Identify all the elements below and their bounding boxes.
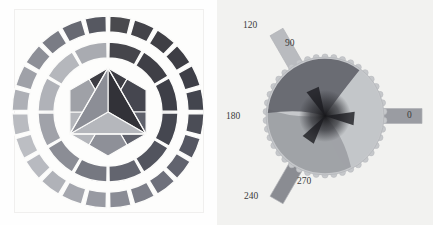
phase-disk-body [266,57,384,175]
wheel-middle-segment [38,78,61,111]
wheel-outer-segment [62,20,86,42]
wheel-middle-segment [136,140,168,172]
wheel-outer-segment [62,182,86,204]
wheel-middle-segment [109,159,142,182]
figure-root: 090120180240270 [0,0,433,225]
angle-label-90: 90 [285,38,295,48]
phase-disk-lobes [268,59,382,173]
angle-label-270: 270 [297,176,312,186]
wheel-middle-segment [74,159,107,182]
wheel-outer-segment [178,66,200,90]
wheel-outer-segment [85,190,107,208]
wheel-outer-segment [110,16,132,34]
wheel-middle-segment [38,113,61,146]
wheel-middle-segment [155,78,178,111]
wheel-outer-segment [16,66,38,90]
wheel-middle-segment [155,113,178,146]
angle-label-180: 180 [226,111,241,121]
wheel-outer-segment [178,134,200,158]
wheel-outer-segment [186,114,204,136]
wheel-outer-segment [12,114,30,136]
wheel-outer-segment [186,89,204,111]
angle-label-240: 240 [244,191,259,201]
wheel-outer-segment [85,16,107,34]
angle-label-120: 120 [243,20,258,30]
wheel-middle-segment [48,140,80,172]
wheel-middle-segment [48,52,80,84]
panel-phase-disk: 090120180240270 [217,0,433,225]
wheel-middle-segment [109,42,142,65]
wheel-outer-segment [12,89,30,111]
wheel-outer-segment [130,20,154,42]
color-wheel-svg [0,0,217,225]
panel-color-wheel [0,0,217,225]
wheel-outer-segment [130,182,154,204]
phase-disk-svg: 090120180240270 [217,0,433,225]
angle-label-0: 0 [407,110,412,120]
wheel-outer-segment [16,134,38,158]
wheel-outer-segment [110,190,132,208]
wheel-middle-segment [136,52,168,84]
wheel-middle-segment [74,42,107,65]
